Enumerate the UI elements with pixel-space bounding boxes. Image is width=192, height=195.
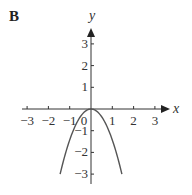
y-tick-label: 3: [82, 36, 89, 51]
x-tick-label: 3: [152, 113, 159, 128]
x-axis-arrow-icon: [161, 105, 170, 113]
x-tick-label: 1: [109, 113, 116, 128]
y-tick-label: −3: [74, 166, 88, 181]
y-tick-label: 1: [82, 79, 89, 94]
y-tick-label: 2: [82, 58, 89, 73]
y-axis-label: y: [87, 8, 96, 23]
x-tick-label: 2: [130, 113, 137, 128]
y-axis-arrow-icon: [87, 28, 95, 37]
y-tick-label: −2: [74, 144, 88, 159]
x-tick-label: −3: [20, 113, 34, 128]
x-axis-label: x: [172, 101, 180, 116]
parabola-plot: xy−3−2−10123−3−2−1123: [0, 0, 192, 195]
x-tick-label: −2: [41, 113, 55, 128]
